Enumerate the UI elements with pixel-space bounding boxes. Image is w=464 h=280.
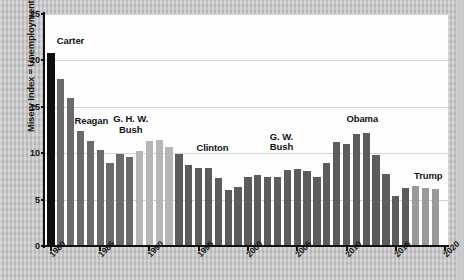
gridline <box>44 14 448 15</box>
admin-label-carter: Carter <box>57 36 84 47</box>
bar <box>284 170 291 246</box>
bar <box>402 188 409 246</box>
bar <box>215 178 222 246</box>
bar <box>244 177 251 246</box>
bar <box>47 53 54 246</box>
bar <box>156 140 163 246</box>
bar <box>343 144 350 246</box>
admin-label-ghw-bush: G. H. W. Bush <box>91 114 171 135</box>
bar <box>382 174 389 246</box>
bar <box>274 177 281 246</box>
bar <box>195 168 202 246</box>
bar <box>412 186 419 246</box>
bar <box>165 147 172 246</box>
plot-area: 0510152025 CarterReaganG. H. W. BushClin… <box>44 14 448 246</box>
bar <box>323 163 330 246</box>
bar <box>126 157 133 246</box>
y-axis-title-wrapper: Misery Index = Unemployment Rate + Infla… <box>0 0 22 260</box>
bar <box>422 188 429 246</box>
bar <box>185 165 192 246</box>
bar <box>294 169 301 246</box>
bar <box>175 154 182 246</box>
bar <box>372 155 379 246</box>
gridline <box>44 60 448 61</box>
admin-label-gw-bush: G. W. Bush <box>241 132 321 153</box>
bar <box>97 150 104 246</box>
bar <box>205 168 212 246</box>
bar <box>363 133 370 246</box>
bar <box>303 171 310 246</box>
bar <box>136 151 143 246</box>
y-axis-title: Misery Index = Unemployment Rate + Infla… <box>25 0 39 139</box>
y-axis-tick-label: 25 <box>30 9 40 19</box>
bar <box>254 175 261 246</box>
gridline <box>44 107 448 108</box>
y-axis-tick-label: 0 <box>35 241 40 251</box>
y-axis-tick-label: 5 <box>35 195 40 205</box>
y-axis-tick-label: 20 <box>30 55 40 65</box>
bar <box>146 141 153 246</box>
y-axis-tick-label: 15 <box>30 102 40 112</box>
bar <box>313 177 320 246</box>
bar <box>353 134 360 246</box>
bar <box>225 190 232 246</box>
y-axis-line <box>43 12 45 248</box>
admin-label-obama: Obama <box>322 114 402 125</box>
bar <box>106 163 113 246</box>
bar <box>87 141 94 246</box>
y-axis-tick-label: 10 <box>30 148 40 158</box>
admin-label-trump: Trump <box>388 171 464 182</box>
bar <box>264 177 271 246</box>
bar <box>116 154 123 246</box>
bar <box>57 79 64 246</box>
bar <box>234 187 241 246</box>
bar <box>77 131 84 246</box>
bar <box>333 142 340 246</box>
bar <box>392 196 399 246</box>
bar <box>432 189 439 246</box>
